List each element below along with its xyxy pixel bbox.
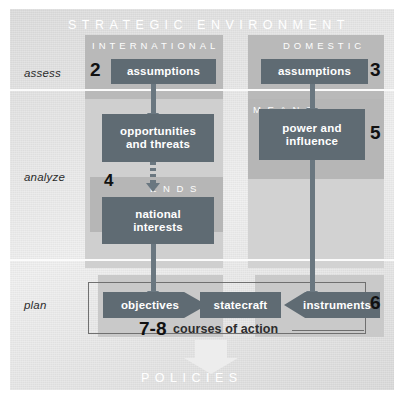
step-number-6: 6 — [370, 292, 381, 314]
stage-label-plan: plan — [24, 299, 47, 311]
node-label-line2: and threats — [126, 138, 190, 151]
connector-dom-assumptions-to-power — [310, 84, 315, 109]
strategic-environment-diagram: STRATEGIC ENVIRONMENT INTERNATIONAL DOME… — [10, 9, 394, 390]
node-power-and-influence[interactable]: power and influence — [259, 109, 365, 160]
step-number-7-8: 7-8 — [139, 318, 166, 340]
divider-analyze-plan — [10, 259, 394, 261]
step-number-3: 3 — [370, 59, 381, 81]
zone-means-column — [248, 179, 384, 268]
node-label: objectives — [121, 299, 179, 312]
node-domestic-assumptions[interactable]: assumptions — [261, 59, 368, 84]
node-opportunities-and-threats[interactable]: opportunities and threats — [102, 114, 214, 162]
courses-of-action-label: courses of action — [173, 322, 278, 336]
courses-of-action-rule — [292, 330, 364, 331]
node-label-line1: power and — [282, 122, 341, 135]
step-number-4: 4 — [104, 171, 113, 191]
stage-label-assess: assess — [24, 67, 61, 79]
node-national-interests[interactable]: national interests — [102, 197, 214, 244]
node-label-line2: interests — [133, 221, 183, 234]
node-label-line2: influence — [286, 135, 338, 148]
heading-domestic: DOMESTIC — [283, 40, 365, 51]
connector-opportunities-to-national-interests — [150, 162, 156, 184]
node-statecraft[interactable]: statecraft — [200, 292, 281, 318]
node-label-line1: national — [135, 208, 181, 221]
diagram-footer: POLICIES — [141, 371, 243, 385]
policies-arrow-shaft — [195, 340, 227, 360]
heading-international: INTERNATIONAL — [92, 40, 219, 51]
node-label: assumptions — [278, 65, 351, 78]
stage-label-analyze: analyze — [24, 171, 65, 183]
arrowhead-icon — [146, 183, 160, 192]
node-label: statecraft — [214, 299, 268, 312]
connector-intl-assumptions-to-opportunities — [151, 84, 156, 114]
step-number-2: 2 — [90, 59, 101, 81]
node-label-line1: opportunities — [120, 125, 196, 138]
node-label: instruments — [303, 299, 371, 312]
step-number-5: 5 — [370, 122, 381, 144]
node-international-assumptions[interactable]: assumptions — [111, 59, 216, 84]
diagram-title: STRATEGIC ENVIRONMENT — [68, 18, 350, 32]
node-label: assumptions — [127, 65, 200, 78]
divider-assess-analyze — [10, 89, 394, 91]
connector-power-to-instruments — [310, 160, 315, 292]
